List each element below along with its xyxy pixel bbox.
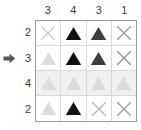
grid-row [36, 71, 136, 96]
column-clue-3: 3 [86, 1, 112, 20]
grid-cell-r4c4[interactable] [112, 96, 136, 121]
triangle-icon [40, 51, 57, 66]
column-clue-1: 3 [35, 1, 61, 20]
cross-icon [116, 50, 132, 66]
triangle-icon [90, 51, 107, 66]
grid-row [36, 46, 136, 71]
grid-cell-r1c3[interactable] [87, 21, 112, 46]
triangle-icon [65, 26, 82, 41]
grid-cell-r2c1[interactable] [36, 46, 61, 71]
grid-cell-r3c4[interactable] [112, 71, 136, 96]
column-clue-4: 1 [112, 1, 138, 20]
row-clue-1: 2 [16, 20, 33, 46]
row-clues: 2 3 4 2 [16, 20, 33, 122]
triangle-icon [90, 26, 107, 41]
row-clue-3: 4 [16, 71, 33, 97]
triangle-icon [90, 76, 107, 91]
arrow-right-icon [3, 52, 16, 65]
row-clue-2: 3 [16, 46, 33, 72]
grid-cell-r2c4[interactable] [112, 46, 136, 71]
grid-cell-r3c1[interactable] [36, 71, 61, 96]
cross-icon [116, 101, 132, 117]
row-clue-4: 2 [16, 97, 33, 123]
puzzle-grid-widget: 3 4 3 1 2 3 4 2 [0, 0, 141, 130]
cross-icon [116, 25, 132, 41]
grid-row [36, 96, 136, 121]
column-clues: 3 4 3 1 [35, 1, 137, 20]
grid-cell-r1c4[interactable] [112, 21, 136, 46]
cross-icon [91, 101, 107, 117]
grid-cell-r1c2[interactable] [61, 21, 86, 46]
triangle-icon [65, 51, 82, 66]
triangle-icon [40, 101, 57, 116]
triangle-icon [115, 76, 132, 91]
grid-cell-r4c1[interactable] [36, 96, 61, 121]
grid-cell-r4c2[interactable] [61, 96, 86, 121]
column-clue-2: 4 [61, 1, 87, 20]
grid-cell-r2c2[interactable] [61, 46, 86, 71]
triangle-icon [40, 76, 57, 91]
grid-cell-r2c3[interactable] [87, 46, 112, 71]
grid-row [36, 21, 136, 46]
grid-cell-r3c3[interactable] [87, 71, 112, 96]
grid [35, 20, 137, 122]
cross-icon [40, 25, 56, 41]
grid-cell-r1c1[interactable] [36, 21, 61, 46]
triangle-icon [65, 101, 82, 116]
triangle-icon [65, 76, 82, 91]
grid-cell-r4c3[interactable] [87, 96, 112, 121]
grid-cell-r3c2[interactable] [61, 71, 86, 96]
